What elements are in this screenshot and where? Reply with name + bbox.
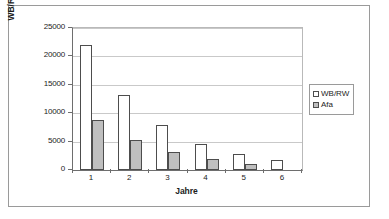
x-axis-tick-mark <box>225 169 226 173</box>
x-axis-tick-mark <box>187 169 188 173</box>
y-axis-tick-label: 5000 <box>23 137 65 145</box>
y-axis-tick-label: 20000 <box>23 51 65 59</box>
bar-wb-rw-6 <box>271 160 283 170</box>
bar-wb-rw-3 <box>156 125 168 170</box>
gridline <box>73 28 302 29</box>
legend-item-label: Afa <box>321 101 333 109</box>
gridline <box>73 85 302 86</box>
x-axis-tick-label: 2 <box>114 173 144 182</box>
gridline <box>73 142 302 143</box>
x-axis-tick-mark <box>263 169 264 173</box>
bar-wb-rw-2 <box>118 95 130 170</box>
bar-afa-4 <box>207 159 219 170</box>
x-axis-title: Jahre <box>72 186 301 196</box>
x-axis-tick-label: 4 <box>191 173 221 182</box>
legend-item-wb-rw: WB/RW <box>313 89 349 99</box>
plot-area <box>72 27 303 171</box>
bar-afa-2 <box>130 140 142 170</box>
x-axis-tick-label: 6 <box>267 173 297 182</box>
y-axis-title: WB/RW (in €) <box>6 0 16 54</box>
y-axis-tick-label: 15000 <box>23 80 65 88</box>
y-axis-tick-label: 25000 <box>23 23 65 31</box>
x-axis-tick-label: 1 <box>76 173 106 182</box>
y-axis-tick-label: 10000 <box>23 108 65 116</box>
x-axis-tick-mark <box>301 169 302 173</box>
x-axis-tick-mark <box>72 169 73 173</box>
bar-wb-rw-4 <box>195 144 207 170</box>
x-axis-tick-label: 5 <box>229 173 259 182</box>
bar-wb-rw-5 <box>233 154 245 170</box>
gridline <box>73 56 302 57</box>
y-axis-tick-label: 0 <box>23 165 65 173</box>
bar-afa-3 <box>168 152 180 170</box>
square-filled-icon <box>313 102 319 108</box>
bar-afa-1 <box>92 120 104 170</box>
chart-legend: WB/RWAfa <box>309 84 354 115</box>
x-axis-tick-mark <box>110 169 111 173</box>
chart-frame: WB/RW (in €) 0500010000150002000025000 1… <box>8 5 370 207</box>
legend-item-label: WB/RW <box>321 90 349 98</box>
legend-item-afa: Afa <box>313 100 349 110</box>
x-axis-tick-label: 3 <box>152 173 182 182</box>
square-open-icon <box>313 91 319 97</box>
bar-afa-5 <box>245 164 257 170</box>
gridline <box>73 113 302 114</box>
bar-wb-rw-1 <box>80 45 92 170</box>
x-axis-tick-mark <box>148 169 149 173</box>
